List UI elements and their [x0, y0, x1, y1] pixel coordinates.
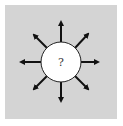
center-question-mark: ? [41, 42, 81, 82]
